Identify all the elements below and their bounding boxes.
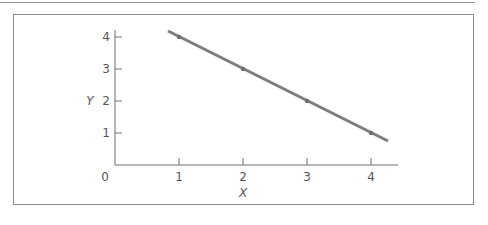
data-point [369,131,373,135]
line-chart: 4 3 2 1 1 2 3 4 0 Y X [0,0,488,225]
xtick-label-2: 2 [239,170,247,184]
xtick-label-4: 4 [367,170,375,184]
data-line [168,31,388,141]
data-point [305,99,309,103]
xtick-label-1: 1 [175,170,183,184]
y-axis-title: Y [86,94,95,108]
ytick-label-1: 1 [102,126,110,140]
y-ticks [115,37,122,133]
ytick-label-3: 3 [102,62,110,76]
xtick-label-3: 3 [303,170,311,184]
x-axis-title: X [238,186,248,200]
origin-label: 0 [101,170,109,184]
ytick-label-2: 2 [102,94,110,108]
x-ticks [179,158,371,165]
data-point [177,35,181,39]
ytick-label-4: 4 [102,30,110,44]
data-point [241,67,245,71]
